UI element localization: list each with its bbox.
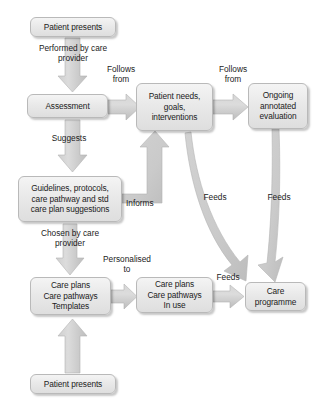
node-care-plans-templates-label: Care plans Care pathways Templates <box>34 280 107 312</box>
arrow-follows-from-2 <box>213 94 248 120</box>
node-ongoing-evaluation[interactable]: Ongoing annotated evaluation <box>248 83 308 129</box>
edge-label-follows-from-1: Follows from <box>100 64 142 84</box>
node-care-plans-in-use-label: Care plans Care pathways In use <box>140 279 209 311</box>
node-patient-needs-label: Patient needs, goals, interventions <box>140 91 209 123</box>
edge-label-suggests: Suggests <box>24 133 114 143</box>
edge-label-feeds-3: Feeds <box>209 272 247 282</box>
node-ongoing-evaluation-label: Ongoing annotated evaluation <box>252 90 304 122</box>
arrow-personalised-to <box>111 284 137 309</box>
node-patient-presents-bottom[interactable]: Patient presents <box>30 374 116 394</box>
node-patient-presents-top[interactable]: Patient presents <box>30 17 116 37</box>
arrow-informs <box>122 131 169 203</box>
arrow-suggests <box>58 120 87 172</box>
node-guidelines-label: Guidelines, protocols, care pathway and … <box>22 183 118 215</box>
node-patient-needs[interactable]: Patient needs, goals, interventions <box>136 83 213 131</box>
edge-label-follows-from-2: Follows from <box>212 64 254 84</box>
diagram-canvas: Patient presents Assessment Patient need… <box>0 0 322 416</box>
edge-label-performed-by-care-provider: Performed by care provider <box>8 43 138 63</box>
node-assessment[interactable]: Assessment <box>27 94 108 118</box>
edge-label-chosen-by-care-provider: Chosen by care provider <box>6 228 134 248</box>
edge-label-personalised-to: Personalised to <box>95 254 159 274</box>
arrow-patient-presents-up <box>58 319 87 373</box>
edge-label-feeds-1: Feeds <box>194 192 236 202</box>
node-care-programme[interactable]: Care programme <box>245 282 306 311</box>
node-guidelines[interactable]: Guidelines, protocols, care pathway and … <box>18 176 122 222</box>
edge-label-informs: Informs <box>126 198 170 208</box>
arrow-feeds-2 <box>258 129 283 282</box>
node-care-programme-label: Care programme <box>249 286 302 307</box>
arrow-feeds-3 <box>213 285 244 308</box>
node-assessment-label: Assessment <box>31 101 104 112</box>
node-patient-presents-top-label: Patient presents <box>34 22 112 33</box>
node-care-plans-in-use[interactable]: Care plans Care pathways In use <box>136 277 213 313</box>
edge-label-feeds-2: Feeds <box>258 192 300 202</box>
node-patient-presents-bottom-label: Patient presents <box>34 379 112 390</box>
arrow-feeds-1 <box>185 132 248 281</box>
node-care-plans-templates[interactable]: Care plans Care pathways Templates <box>30 277 111 315</box>
